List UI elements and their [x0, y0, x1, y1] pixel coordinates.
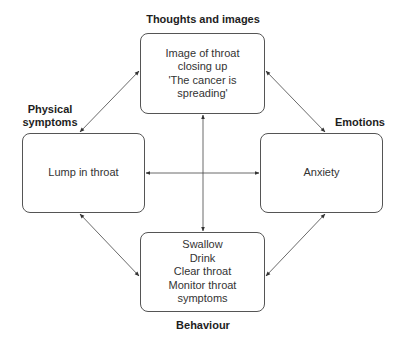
node-emotions: Anxiety: [260, 133, 383, 213]
node-text-line: closing up: [178, 60, 228, 74]
node-text-line: 'The cancer is: [168, 74, 236, 88]
label-emotions: Emotions: [330, 116, 385, 129]
node-text-line: Lump in throat: [48, 166, 118, 180]
node-text-line: Drink: [190, 252, 216, 266]
node-text-line: Monitor throat: [169, 279, 237, 293]
node-thoughts-and-images: Image of throat closing up 'The cancer i…: [140, 33, 265, 114]
label-physical-line2: symptoms: [20, 116, 80, 129]
node-text-line: Swallow: [182, 238, 222, 252]
node-text-line: Clear throat: [174, 265, 231, 279]
label-thoughts-and-images: Thoughts and images: [140, 13, 266, 26]
node-text-line: spreading': [177, 87, 227, 101]
node-text-line: symptoms: [177, 292, 227, 306]
arrow-thoughts-emotions: [266, 71, 325, 132]
node-text-line: Anxiety: [303, 166, 339, 180]
label-physical-symptoms: Physical symptoms: [20, 103, 80, 129]
node-physical-symptoms: Lump in throat: [22, 133, 145, 213]
node-behaviour: Swallow Drink Clear throat Monitor throa…: [140, 232, 265, 312]
label-physical-line1: Physical: [20, 103, 80, 116]
arrow-thoughts-physical: [80, 71, 139, 132]
arrow-emotions-behaviour: [266, 214, 325, 276]
arrow-physical-behaviour: [80, 214, 139, 276]
node-text-line: Image of throat: [166, 47, 240, 61]
label-behaviour: Behaviour: [140, 319, 266, 332]
